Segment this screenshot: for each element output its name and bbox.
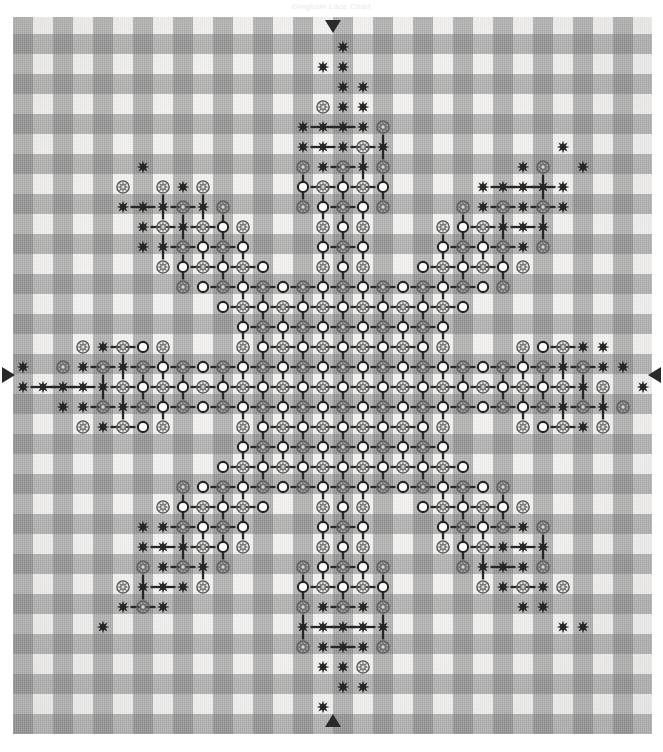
center-marker-top-icon (325, 20, 341, 33)
center-marker-bottom-icon (325, 714, 341, 727)
page-caption: Gingham Lace Chart (0, 0, 663, 13)
gingham-fabric (13, 17, 652, 734)
stitch-symbol-layer (13, 17, 652, 734)
center-marker-left-icon (2, 367, 15, 383)
center-marker-right-icon (648, 367, 661, 383)
